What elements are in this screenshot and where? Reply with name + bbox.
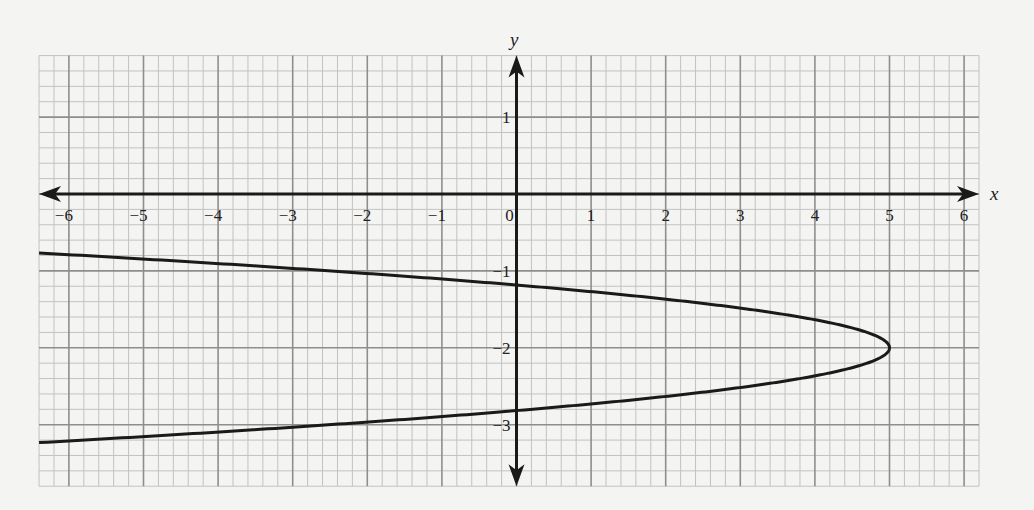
x-tick-label: −3	[279, 206, 297, 225]
parabola-graph: −6−5−4−3−2−10123456 1−1−2−3 x y	[0, 0, 1034, 510]
y-tick-label: −3	[492, 416, 510, 435]
x-tick-label: −5	[129, 206, 147, 225]
y-axis-label: y	[508, 29, 519, 50]
y-tick-label: −2	[492, 339, 510, 358]
x-tick-label: −1	[428, 206, 446, 225]
x-tick-label: 0	[505, 206, 514, 225]
x-tick-label: −4	[204, 206, 223, 225]
x-tick-label: 5	[885, 206, 894, 225]
x-tick-label: −6	[55, 206, 73, 225]
x-tick-label: 2	[661, 206, 670, 225]
y-tick-label: 1	[502, 108, 511, 127]
x-tick-label: 4	[811, 206, 820, 225]
x-tick-label: 3	[736, 206, 745, 225]
x-tick-label: 1	[587, 206, 596, 225]
x-tick-label: −2	[353, 206, 371, 225]
x-tick-label: 6	[960, 206, 969, 225]
y-tick-label: −1	[492, 262, 510, 281]
x-axis-label: x	[989, 183, 999, 204]
